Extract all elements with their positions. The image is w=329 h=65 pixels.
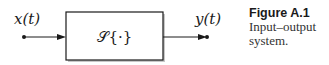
input-arrowhead-icon [57,34,66,40]
caption-line-2: system. [249,34,316,48]
output-node-dot [205,35,209,39]
input-label: x(t) [14,10,40,28]
system-label: 𝒮{·} [97,28,133,46]
figure-caption: Figure A.1 Input–output system. [249,6,316,48]
figure-number: Figure A.1 [249,6,316,20]
output-label: y(t) [194,10,221,28]
caption-line-1: Input–output [249,20,316,34]
